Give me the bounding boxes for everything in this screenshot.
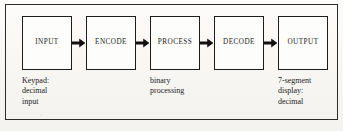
caption-process: binary processing [150, 76, 184, 97]
block-label-output: OUTPUT [287, 39, 318, 47]
block-label-decode: DECODE [223, 39, 255, 47]
caption-input: Keypad: decimal input [22, 76, 49, 107]
block-input: INPUT [22, 16, 72, 70]
block-output: OUTPUT [278, 16, 328, 70]
block-decode: DECODE [214, 16, 264, 70]
block-diagram-figure: INPUT ENCODE PROCESS DECODE OUTPUT Keypa… [0, 0, 343, 131]
block-label-process: PROCESS [158, 39, 192, 47]
right-arrow-icon [136, 36, 150, 50]
caption-output: 7-segment display: decimal [278, 76, 311, 107]
right-arrow-icon [72, 36, 86, 50]
right-arrow-icon [264, 36, 278, 50]
block-encode: ENCODE [86, 16, 136, 70]
block-label-input: INPUT [35, 39, 58, 47]
block-process: PROCESS [150, 16, 200, 70]
block-label-encode: ENCODE [95, 39, 127, 47]
right-arrow-icon [200, 36, 214, 50]
